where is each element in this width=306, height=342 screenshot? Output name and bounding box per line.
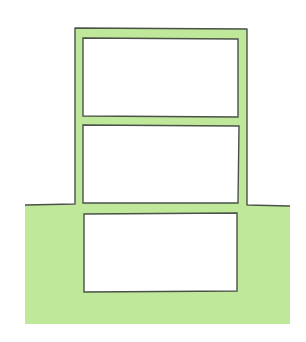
building-section-diagram — [0, 0, 306, 342]
middle-floor-room — [83, 125, 239, 203]
upper-floor-room — [83, 38, 238, 117]
basement-room — [84, 213, 237, 292]
